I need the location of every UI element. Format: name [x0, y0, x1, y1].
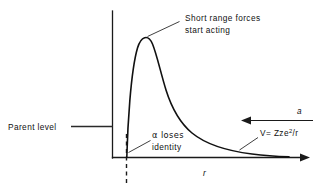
- short-range-forces-label-line2: start acting: [185, 25, 230, 35]
- x-axis-arrowhead: [300, 153, 310, 161]
- x-axis-label: r: [203, 168, 207, 178]
- formula-prefix: V= Zze: [260, 128, 289, 138]
- parent-level-label: Parent level: [8, 122, 57, 132]
- short-range-leader-line: [148, 22, 180, 37]
- coulomb-formula-leader-line: [240, 138, 259, 151]
- diagram-canvas: Parent level Short range forces start ac…: [0, 0, 324, 190]
- coulomb-formula-label: V= Zze2/r: [260, 128, 298, 138]
- nuclear-radius-arrow: [241, 117, 313, 125]
- alpha-loses-leader-line: [129, 141, 151, 153]
- short-range-forces-label-line1: Short range forces: [185, 13, 260, 23]
- alpha-loses-identity-label-line2: identity: [152, 142, 182, 152]
- svg-text:V= Zze2/r: V= Zze2/r: [260, 128, 298, 138]
- formula-suffix: /r: [293, 128, 299, 138]
- arrow-left-head: [241, 117, 251, 125]
- nuclear-radius-arrow-label: a: [297, 107, 302, 116]
- potential-barrier-figure: Parent level Short range forces start ac…: [0, 0, 324, 190]
- alpha-loses-identity-label-line1: α loses: [152, 130, 184, 140]
